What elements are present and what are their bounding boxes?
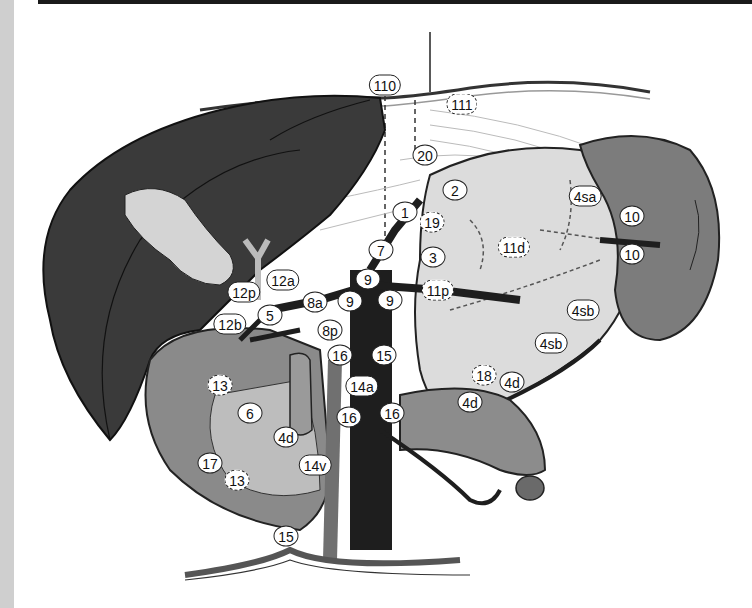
lymph-node-station-4sa: 4sa [569, 186, 602, 207]
lymph-node-station-15: 15 [274, 526, 299, 547]
lymph-node-station-17: 17 [198, 453, 223, 474]
lymph-node-station-4sb: 4sb [535, 333, 568, 354]
lymph-node-station-2: 2 [443, 180, 468, 201]
lower-mesenteric-arcade [185, 550, 460, 575]
lymph-node-station-7: 7 [369, 240, 394, 261]
lymph-node-station-16: 16 [337, 407, 362, 428]
lymph-node-station-12b: 12b [213, 314, 246, 335]
lymph-node-station-9: 9 [338, 291, 363, 312]
lymph-node-station-18: 18 [472, 365, 497, 386]
lymph-node-station-8a: 8a [303, 292, 328, 313]
lymph-node-station-12a: 12a [266, 270, 299, 291]
lymph-node-station-4d: 4d [274, 427, 299, 448]
lymph-node-station-4sb: 4sb [567, 300, 600, 321]
lymph-node-station-11d: 11d [498, 237, 530, 258]
lymph-node-station-8p: 8p [318, 320, 343, 341]
lymph-node-station-14v: 14v [299, 455, 332, 476]
lymph-node-station-9: 9 [378, 290, 403, 311]
lymph-node-station-1: 1 [393, 202, 418, 223]
lymph-node-station-12p: 12p [227, 282, 260, 303]
lymph-node-station-111: 111 [446, 94, 477, 115]
lymph-node-station-6: 6 [238, 403, 263, 424]
lymph-node-station-10: 10 [620, 206, 645, 227]
lymph-node-station-15: 15 [372, 345, 397, 366]
lymph-node-station-19: 19 [420, 212, 445, 233]
lymph-node-station-16: 16 [328, 345, 353, 366]
lymph-node-station-9: 9 [356, 269, 381, 290]
pylorus [290, 353, 312, 435]
lymph-node-station-110: 110 [369, 75, 401, 96]
lymph-node-station-10: 10 [620, 244, 645, 265]
lymph-node-station-13: 13 [225, 470, 250, 491]
lymph-node-station-5: 5 [258, 305, 283, 326]
lymph-node-station-11p: 11p [422, 280, 454, 301]
lymph-node-station-14a: 14a [345, 376, 378, 397]
lymph-node-station-3: 3 [421, 247, 446, 268]
lymph-node-station-13: 13 [208, 375, 233, 396]
lymph-node-station-4d: 4d [458, 392, 483, 413]
lymph-node-station-16: 16 [380, 403, 405, 424]
lymph-node-station-4d: 4d [500, 372, 525, 393]
lymph-node-station-20: 20 [413, 145, 438, 166]
